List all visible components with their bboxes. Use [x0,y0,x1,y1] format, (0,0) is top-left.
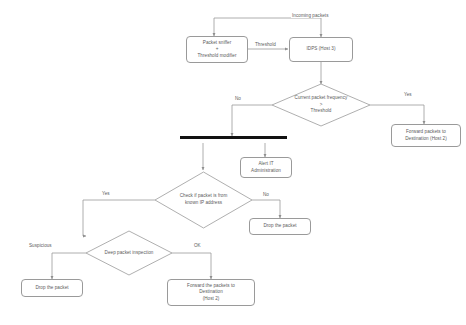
edge-label-ok: OK [193,243,202,248]
forward-right-line1: Forward packets to [406,129,446,136]
node-deep-packet-inspection[interactable]: Deep packet inspection [86,231,172,275]
edge-label-frequency-no: No [234,96,242,101]
packet-sniffer-line2: + [216,46,219,53]
packet-sniffer-line3: Threshold modifier [198,53,237,60]
node-drop-packet-left[interactable]: Drop the packet [21,279,83,297]
node-synchronization-bar [180,136,287,139]
alert-it-line1: Alert IT [258,161,273,168]
forward-bottom-line1: Forward the packets to [187,283,235,290]
forward-right-line2: Destination (Host 2) [405,136,447,143]
node-forward-packets-bottom[interactable]: Forward the packets to Destination (Host… [167,279,255,306]
edge-label-known-ip-yes: Yes [101,191,111,196]
known-ip-line2: known IP address [185,200,222,207]
frequency-decision-line2: > [320,102,323,109]
alert-it-line2: Administration [251,168,281,175]
drop-packet-left-label: Drop the packet [35,285,68,292]
node-frequency-decision[interactable]: Current packet frequency > Threshold [272,84,370,126]
flowchart-canvas: Incoming packets Packet sniffer + Thresh… [0,0,466,325]
edge-label-incoming-packets: Incoming packets [291,13,330,18]
forward-bottom-line3: (Host 2) [203,296,220,303]
node-known-ip-decision[interactable]: Check if packet is from known IP address [155,172,252,228]
edge-label-frequency-yes: Yes [403,92,413,97]
edge-label-threshold: Threshold [254,42,277,47]
forward-bottom-line2: Destination [199,289,223,296]
node-packet-sniffer[interactable]: Packet sniffer + Threshold modifier [186,36,248,63]
node-idps[interactable]: IDPS (Host 3) [289,37,353,62]
frequency-decision-line1: Current packet frequency [295,95,348,102]
idps-label: IDPS (Host 3) [307,46,336,53]
packet-sniffer-line1: Packet sniffer [203,40,231,47]
deep-inspection-label: Deep packet inspection [105,250,154,257]
edge-label-suspicious: Suspicious [28,243,53,248]
node-forward-packets-right[interactable]: Forward packets to Destination (Host 2) [391,124,461,147]
edge-label-known-ip-no: No [262,192,270,197]
drop-packet-right-label: Drop the packet [263,223,296,230]
node-drop-packet-right[interactable]: Drop the packet [249,218,311,235]
frequency-decision-line3: Threshold [311,108,332,115]
known-ip-line1: Check if packet is from [180,193,228,200]
